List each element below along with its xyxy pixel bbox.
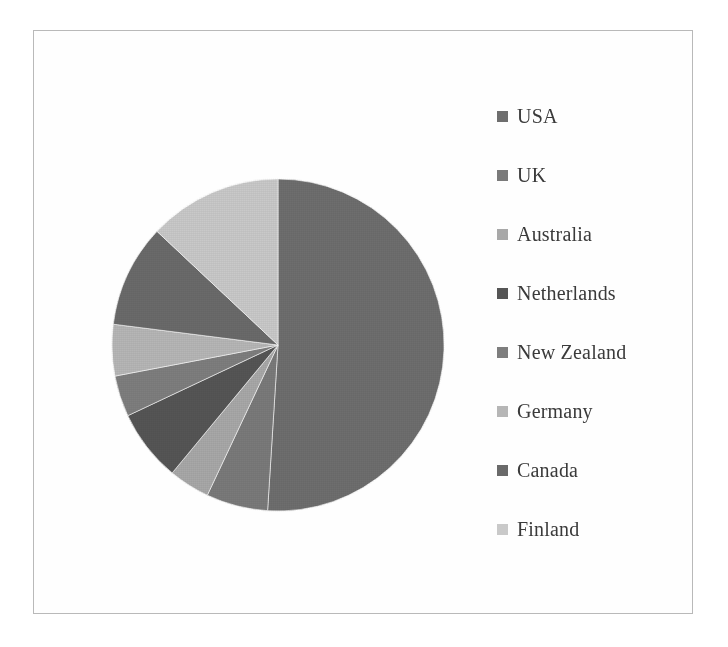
pie-slice[interactable] bbox=[268, 179, 444, 511]
legend-item-label: Canada bbox=[517, 459, 578, 481]
legend-item[interactable]: Finland bbox=[497, 516, 707, 542]
legend-item[interactable]: Germany bbox=[497, 398, 707, 424]
legend-swatch-icon bbox=[497, 288, 508, 299]
legend-swatch-icon bbox=[497, 229, 508, 240]
legend-swatch-icon bbox=[497, 170, 508, 181]
legend-swatch-icon bbox=[497, 111, 508, 122]
legend-swatch-icon bbox=[497, 524, 508, 535]
legend-swatch-icon bbox=[497, 347, 508, 358]
legend-item-label: Germany bbox=[517, 400, 593, 422]
legend-item-label: Australia bbox=[517, 223, 592, 245]
legend-item-label: Finland bbox=[517, 518, 580, 540]
pie-slices bbox=[111, 178, 445, 512]
pie-chart-area bbox=[111, 178, 445, 512]
legend-item-label: Netherlands bbox=[517, 282, 616, 304]
legend-item-label: UK bbox=[517, 164, 546, 186]
legend-item[interactable]: USA bbox=[497, 103, 707, 129]
legend-item-label: USA bbox=[517, 105, 558, 127]
legend-item[interactable]: New Zealand bbox=[497, 339, 707, 365]
pie-chart-figure: USAUKAustraliaNetherlandsNew ZealandGerm… bbox=[0, 0, 728, 647]
legend-swatch-icon bbox=[497, 406, 508, 417]
legend-item-label: New Zealand bbox=[517, 341, 626, 363]
legend-item[interactable]: Netherlands bbox=[497, 280, 707, 306]
legend-item[interactable]: UK bbox=[497, 162, 707, 188]
pie-circle bbox=[111, 178, 445, 512]
legend-swatch-icon bbox=[497, 465, 508, 476]
figure-frame: USAUKAustraliaNetherlandsNew ZealandGerm… bbox=[33, 30, 693, 614]
legend-item[interactable]: Canada bbox=[497, 457, 707, 483]
legend-item[interactable]: Australia bbox=[497, 221, 707, 247]
legend: USAUKAustraliaNetherlandsNew ZealandGerm… bbox=[497, 103, 707, 575]
